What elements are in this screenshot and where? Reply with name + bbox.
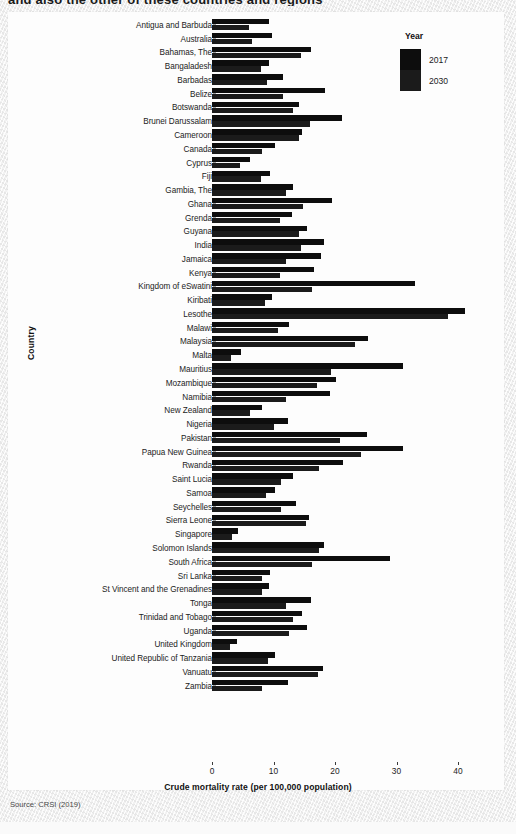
x-tick-label: 10 (269, 766, 278, 776)
bar-2030 (212, 190, 286, 195)
bar-2017 (212, 418, 288, 423)
y-tick-label: Singapore (175, 530, 212, 539)
bar-2017 (212, 267, 314, 272)
y-tick-label: Pakistan (181, 433, 212, 442)
bar-2017 (212, 239, 324, 244)
y-tick-label: Brunei Darussalam (143, 117, 212, 126)
bar-row: Cyprus (38, 156, 490, 170)
bar-pair (212, 252, 470, 266)
bar-2017 (212, 680, 288, 685)
legend-swatch-2017 (400, 49, 421, 70)
y-tick-label: Botswanda (172, 103, 212, 112)
bar-2030 (212, 576, 262, 581)
y-tick-label: Bahamas, The (160, 48, 213, 57)
source-note: Source: CRSI (2019) (10, 800, 80, 809)
bar-2030 (212, 204, 303, 209)
bar-2017 (212, 473, 293, 478)
bar-2017 (212, 515, 309, 520)
bar-row: United Republic of Tanzania (38, 651, 490, 665)
bar-pair (212, 679, 470, 693)
bar-pair (212, 307, 470, 321)
bar-row: Malaysia (38, 335, 490, 349)
bar-pair (212, 459, 470, 473)
bar-pair (212, 651, 470, 665)
bar-2030 (212, 438, 340, 443)
bar-row: New Zealand (38, 403, 490, 417)
bar-row: Uganda (38, 624, 490, 638)
bar-2017 (212, 583, 269, 588)
bar-row: Solomon Islands (38, 541, 490, 555)
bar-2030 (212, 397, 286, 402)
bar-pair (212, 321, 470, 335)
poster-title-fragment: and also the other of these countries an… (0, 0, 516, 6)
bar-pair (212, 335, 470, 349)
bar-2017 (212, 294, 272, 299)
bar-2030 (212, 231, 299, 236)
y-tick-label: Barbadas (177, 75, 212, 84)
y-tick-label: Uganda (184, 626, 212, 635)
bar-2017 (212, 542, 324, 547)
bar-2017 (212, 528, 238, 533)
bar-2030 (212, 108, 293, 113)
legend-label-2030: 2030 (429, 76, 448, 86)
bar-row: Papua New Guinea (38, 445, 490, 459)
y-tick-label: Guyana (184, 227, 212, 236)
x-tick-mark (335, 762, 336, 765)
bar-row: Cameroon (38, 128, 490, 142)
y-tick-label: Antigua and Barbuda (136, 20, 212, 29)
bar-2030 (212, 53, 301, 58)
poster-bottom-strip (0, 822, 516, 834)
bar-2030 (212, 507, 281, 512)
y-tick-label: Zambia (185, 681, 212, 690)
bar-2017 (212, 184, 293, 189)
y-tick-label: Samoa (186, 488, 212, 497)
bar-pair (212, 527, 470, 541)
x-tick-mark (212, 762, 213, 765)
bar-2030 (212, 245, 301, 250)
bar-2017 (212, 281, 415, 286)
bar-row: Vanuatu (38, 665, 490, 679)
bar-2030 (212, 631, 289, 636)
y-axis-title: Country (26, 326, 36, 360)
bar-row: United Kingdom (38, 637, 490, 651)
legend-title: Year (405, 31, 423, 41)
bar-pair (212, 238, 470, 252)
bar-2017 (212, 556, 390, 561)
bar-2017 (212, 226, 307, 231)
bar-pair (212, 596, 470, 610)
x-tick-mark (274, 762, 275, 765)
bar-pair (212, 665, 470, 679)
bar-2030 (212, 94, 283, 99)
y-tick-label: South Africa (168, 557, 212, 566)
bar-row: Kenya (38, 266, 490, 280)
bar-2017 (212, 143, 275, 148)
y-tick-label: Papua New Guinea (142, 447, 212, 456)
bar-2017 (212, 74, 283, 79)
bar-row: Zambia (38, 679, 490, 693)
y-tick-label: Mozambique (166, 378, 212, 387)
y-tick-label: New Zealand (164, 406, 212, 415)
bar-2030 (212, 521, 306, 526)
bar-pair (212, 472, 470, 486)
y-tick-label: Gambia, The (165, 186, 212, 195)
bar-pair (212, 637, 470, 651)
bar-row: Tonga (38, 596, 490, 610)
bar-row: Namibia (38, 390, 490, 404)
bar-2030 (212, 452, 361, 457)
bar-pair (212, 142, 470, 156)
y-tick-label: Solomon Islands (152, 543, 212, 552)
y-tick-label: Mauritius (179, 365, 212, 374)
x-tick-mark (397, 762, 398, 765)
bar-2030 (212, 424, 274, 429)
bar-2017 (212, 129, 302, 134)
bar-pair (212, 431, 470, 445)
bar-row: Samoa (38, 486, 490, 500)
bar-pair (212, 417, 470, 431)
bar-2017 (212, 570, 270, 575)
bar-2030 (212, 176, 261, 181)
bar-pair (212, 183, 470, 197)
bar-row: Brunei Darussalam (38, 114, 490, 128)
legend: Year 2017 2030 (373, 22, 491, 102)
bar-row: Malawi (38, 321, 490, 335)
plot-area: Antigua and BarbudaAustraliaBahamas, The… (38, 18, 490, 762)
